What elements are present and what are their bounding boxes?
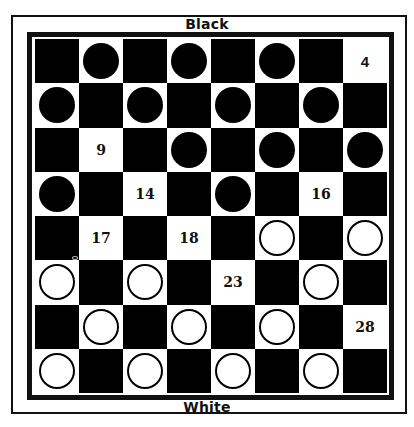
scan-artifact bbox=[72, 256, 78, 260]
square-r0-c7[interactable]: 4 bbox=[343, 39, 387, 83]
square-number: 18 bbox=[167, 216, 211, 260]
square-r2-c0 bbox=[35, 128, 79, 172]
black-checker-piece[interactable] bbox=[259, 43, 295, 79]
white-checker-piece[interactable] bbox=[303, 353, 339, 389]
square-r3-c5 bbox=[255, 172, 299, 216]
square-r7-c5 bbox=[255, 349, 299, 393]
square-r0-c2 bbox=[123, 39, 167, 83]
square-r0-c0 bbox=[35, 39, 79, 83]
square-r6-c7[interactable]: 28 bbox=[343, 305, 387, 349]
square-r0-c6 bbox=[299, 39, 343, 83]
square-r6-c4 bbox=[211, 305, 255, 349]
square-r2-c4 bbox=[211, 128, 255, 172]
square-r6-c5[interactable] bbox=[255, 305, 299, 349]
black-checker-piece[interactable] bbox=[127, 87, 163, 123]
square-r7-c3 bbox=[167, 349, 211, 393]
white-checker-piece[interactable] bbox=[39, 353, 75, 389]
black-checker-piece[interactable] bbox=[215, 87, 251, 123]
square-r2-c2 bbox=[123, 128, 167, 172]
square-r5-c4[interactable]: 23 bbox=[211, 260, 255, 304]
square-r0-c3[interactable] bbox=[167, 39, 211, 83]
square-r7-c4[interactable] bbox=[211, 349, 255, 393]
square-r7-c1 bbox=[79, 349, 123, 393]
square-r5-c7 bbox=[343, 260, 387, 304]
square-r3-c1 bbox=[79, 172, 123, 216]
white-checker-piece[interactable] bbox=[171, 309, 207, 345]
black-checker-piece[interactable] bbox=[39, 176, 75, 212]
square-r6-c0 bbox=[35, 305, 79, 349]
square-r3-c7 bbox=[343, 172, 387, 216]
black-checker-piece[interactable] bbox=[215, 176, 251, 212]
square-r5-c3 bbox=[167, 260, 211, 304]
square-r1-c2[interactable] bbox=[123, 83, 167, 127]
square-number: 28 bbox=[343, 305, 387, 349]
black-side-label: Black bbox=[0, 16, 414, 33]
square-r6-c2 bbox=[123, 305, 167, 349]
square-r4-c5[interactable] bbox=[255, 216, 299, 260]
square-r1-c4[interactable] bbox=[211, 83, 255, 127]
square-number: 9 bbox=[79, 128, 123, 172]
white-checker-piece[interactable] bbox=[215, 353, 251, 389]
square-r7-c7 bbox=[343, 349, 387, 393]
square-r2-c1[interactable]: 9 bbox=[79, 128, 123, 172]
black-checker-piece[interactable] bbox=[259, 132, 295, 168]
square-number: 4 bbox=[343, 39, 387, 83]
white-checker-piece[interactable] bbox=[83, 309, 119, 345]
white-checker-piece[interactable] bbox=[39, 264, 75, 300]
square-r5-c6[interactable] bbox=[299, 260, 343, 304]
square-r4-c2 bbox=[123, 216, 167, 260]
square-r4-c0 bbox=[35, 216, 79, 260]
square-r2-c3[interactable] bbox=[167, 128, 211, 172]
square-r3-c6[interactable]: 16 bbox=[299, 172, 343, 216]
square-r0-c5[interactable] bbox=[255, 39, 299, 83]
square-r2-c5[interactable] bbox=[255, 128, 299, 172]
square-r3-c2[interactable]: 14 bbox=[123, 172, 167, 216]
white-checker-piece[interactable] bbox=[259, 220, 295, 256]
square-r2-c6 bbox=[299, 128, 343, 172]
square-r0-c4 bbox=[211, 39, 255, 83]
square-r3-c3 bbox=[167, 172, 211, 216]
square-number: 23 bbox=[211, 260, 255, 304]
black-checker-piece[interactable] bbox=[347, 132, 383, 168]
white-checker-piece[interactable] bbox=[259, 309, 295, 345]
square-r1-c6[interactable] bbox=[299, 83, 343, 127]
checkers-board: 49141617182328 bbox=[35, 39, 387, 393]
white-checker-piece[interactable] bbox=[127, 353, 163, 389]
black-checker-piece[interactable] bbox=[303, 87, 339, 123]
black-checker-piece[interactable] bbox=[171, 43, 207, 79]
white-checker-piece[interactable] bbox=[347, 220, 383, 256]
black-checker-piece[interactable] bbox=[83, 43, 119, 79]
square-r1-c3 bbox=[167, 83, 211, 127]
black-checker-piece[interactable] bbox=[171, 132, 207, 168]
square-r1-c0[interactable] bbox=[35, 83, 79, 127]
square-r5-c0[interactable] bbox=[35, 260, 79, 304]
square-r1-c1 bbox=[79, 83, 123, 127]
square-r6-c3[interactable] bbox=[167, 305, 211, 349]
square-number: 16 bbox=[299, 172, 343, 216]
square-r6-c6 bbox=[299, 305, 343, 349]
square-r0-c1[interactable] bbox=[79, 39, 123, 83]
black-checker-piece[interactable] bbox=[39, 87, 75, 123]
square-r3-c0[interactable] bbox=[35, 172, 79, 216]
square-r5-c1 bbox=[79, 260, 123, 304]
square-r7-c2[interactable] bbox=[123, 349, 167, 393]
square-r3-c4[interactable] bbox=[211, 172, 255, 216]
square-number: 17 bbox=[79, 216, 123, 260]
square-r4-c1[interactable]: 17 bbox=[79, 216, 123, 260]
square-r4-c7[interactable] bbox=[343, 216, 387, 260]
square-number: 14 bbox=[123, 172, 167, 216]
square-r4-c6 bbox=[299, 216, 343, 260]
white-checker-piece[interactable] bbox=[303, 264, 339, 300]
square-r1-c7 bbox=[343, 83, 387, 127]
square-r4-c3[interactable]: 18 bbox=[167, 216, 211, 260]
square-r7-c0[interactable] bbox=[35, 349, 79, 393]
square-r6-c1[interactable] bbox=[79, 305, 123, 349]
square-r7-c6[interactable] bbox=[299, 349, 343, 393]
square-r2-c7[interactable] bbox=[343, 128, 387, 172]
square-r4-c4 bbox=[211, 216, 255, 260]
square-r1-c5 bbox=[255, 83, 299, 127]
square-r5-c5 bbox=[255, 260, 299, 304]
square-r5-c2[interactable] bbox=[123, 260, 167, 304]
white-side-label: White bbox=[0, 399, 414, 416]
white-checker-piece[interactable] bbox=[127, 264, 163, 300]
